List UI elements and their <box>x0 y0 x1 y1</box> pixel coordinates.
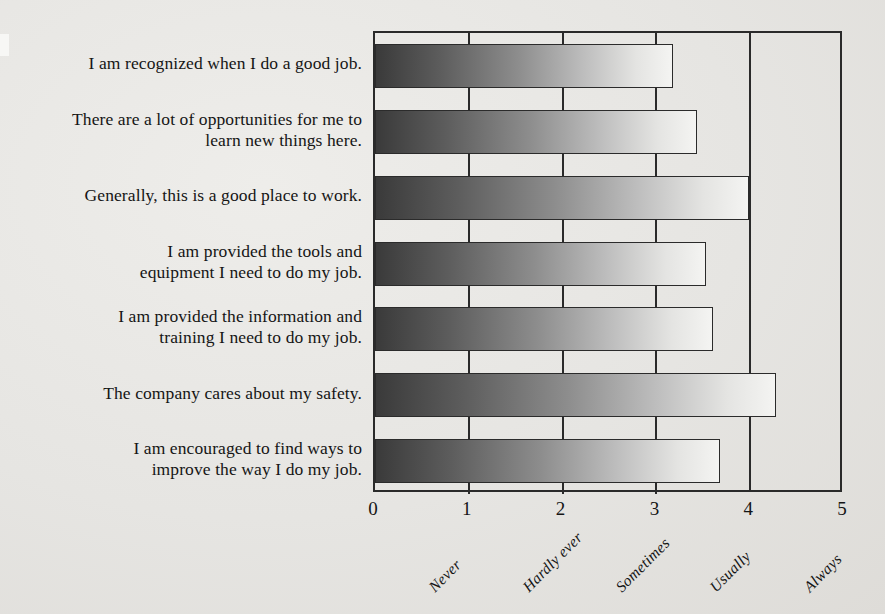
x-tick-label-4: 4 <box>743 498 753 520</box>
bar <box>375 44 673 88</box>
bar <box>375 176 749 220</box>
x-tick-label-1: 1 <box>462 498 472 520</box>
tick-segment-x-3 <box>655 482 657 494</box>
tick-segment-x-1 <box>468 87 470 99</box>
tick-segment-x-1 <box>468 362 470 374</box>
survey-bar-chart: I am recognized when I do a good job.The… <box>0 0 885 614</box>
tick-segment-x-1 <box>468 153 470 165</box>
tick-segment-x-2 <box>562 219 564 231</box>
tick-segment-x-1 <box>468 99 470 111</box>
tick-segment-x-2 <box>562 350 564 362</box>
tick-segment-x-3 <box>655 416 657 428</box>
tick-segment-x-2 <box>562 87 564 99</box>
x-tick-label-3: 3 <box>650 498 660 520</box>
tick-segment-x-2 <box>562 99 564 111</box>
tick-segment-x-1 <box>468 482 470 494</box>
bar <box>375 439 720 483</box>
tick-segment-x-3 <box>655 362 657 374</box>
tick-segment-x-2 <box>562 482 564 494</box>
category-label-line: I am encouraged to find ways to <box>10 438 362 459</box>
tick-segment-x-2 <box>562 428 564 440</box>
tick-segment-x-3 <box>655 165 657 177</box>
category-label-line: learn new things here. <box>10 130 362 151</box>
tick-segment-x-1 <box>468 33 470 45</box>
scale-label-usually: Usually <box>706 547 754 595</box>
category-label-line: I am provided the tools and <box>10 241 362 262</box>
tick-segment-x-3 <box>655 99 657 111</box>
tick-segment-x-3 <box>655 87 657 99</box>
bar <box>375 307 713 351</box>
category-label-line: improve the way I do my job. <box>10 459 362 480</box>
category-label-line: I am provided the information and <box>10 306 362 327</box>
tick-segment-x-1 <box>468 350 470 362</box>
tick-segment-x-3 <box>655 231 657 243</box>
bar <box>375 242 706 286</box>
tick-segment-x-2 <box>562 165 564 177</box>
x-tick-label-0: 0 <box>368 498 378 520</box>
bar <box>375 373 776 417</box>
tick-segment-x-1 <box>468 285 470 297</box>
category-label-line: Generally, this is a good place to work. <box>10 185 362 206</box>
tick-segment-x-1 <box>468 219 470 231</box>
category-label: The company cares about my safety. <box>10 383 362 404</box>
tick-segment-x-2 <box>562 153 564 165</box>
tick-segment-x-1 <box>468 428 470 440</box>
category-label-line: I am recognized when I do a good job. <box>10 53 362 74</box>
tick-segment-x-3 <box>655 153 657 165</box>
tick-segment-x-2 <box>562 296 564 308</box>
tick-segment-x-1 <box>468 231 470 243</box>
tick-segment-x-3 <box>655 33 657 45</box>
gridline-x-4 <box>749 31 751 492</box>
category-label-line: The company cares about my safety. <box>10 383 362 404</box>
category-label: Generally, this is a good place to work. <box>10 185 362 206</box>
plot-area <box>373 31 842 492</box>
category-label: There are a lot of opportunities for me … <box>10 109 362 151</box>
scale-label-sometimes: Sometimes <box>612 534 674 596</box>
bar <box>375 110 697 154</box>
x-tick-label-5: 5 <box>837 498 847 520</box>
tick-segment-x-1 <box>468 416 470 428</box>
category-label: I am provided the information andtrainin… <box>10 306 362 348</box>
tick-segment-x-2 <box>562 231 564 243</box>
x-tick-label-2: 2 <box>556 498 566 520</box>
tick-segment-x-2 <box>562 285 564 297</box>
scale-label-never: Never <box>425 556 465 596</box>
tick-segment-x-3 <box>655 219 657 231</box>
category-label-column: I am recognized when I do a good job.The… <box>10 31 362 492</box>
tick-segment-x-3 <box>655 285 657 297</box>
tick-segment-x-1 <box>468 296 470 308</box>
tick-segment-x-3 <box>655 296 657 308</box>
category-label: I am encouraged to find ways toimprove t… <box>10 438 362 480</box>
category-label-line: training I need to do my job. <box>10 327 362 348</box>
category-label: I am recognized when I do a good job. <box>10 53 362 74</box>
scale-label-always: Always <box>800 550 846 596</box>
tick-segment-x-2 <box>562 416 564 428</box>
scale-label-hardly-ever: Hardly ever <box>519 528 586 595</box>
category-label-line: equipment I need to do my job. <box>10 262 362 283</box>
tick-segment-x-1 <box>468 165 470 177</box>
category-label: I am provided the tools andequipment I n… <box>10 241 362 283</box>
tick-segment-x-3 <box>655 428 657 440</box>
category-label-line: There are a lot of opportunities for me … <box>10 109 362 130</box>
tick-segment-x-2 <box>562 362 564 374</box>
tick-segment-x-2 <box>562 33 564 45</box>
tick-segment-x-3 <box>655 350 657 362</box>
